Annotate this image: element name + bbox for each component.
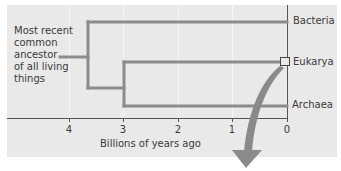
root-label-line: things [14, 73, 74, 85]
root-label-line: common [14, 37, 74, 49]
phylogenetic-tree-figure: Most recent common ancestor of all livin… [0, 0, 341, 171]
x-tick-label: 2 [171, 124, 185, 135]
taxon-label-archaea: Archaea [292, 99, 333, 111]
root-label-line: Most recent [14, 25, 74, 37]
x-tick-label: 0 [280, 124, 294, 135]
x-axis-title: Billions of years ago [100, 138, 201, 149]
root-label-line: ancestor [14, 49, 74, 61]
taxon-label-eukarya: Eukarya [293, 56, 334, 68]
arrow-head-icon [232, 150, 262, 168]
eukarya-highlight-box [281, 58, 290, 66]
taxon-label-bacteria: Bacteria [293, 15, 335, 27]
x-tick-label: 3 [116, 124, 130, 135]
root-label-line: of all living [14, 61, 74, 73]
x-tick-label: 1 [225, 124, 239, 135]
root-ancestor-label: Most recent common ancestor of all livin… [14, 25, 74, 85]
x-tick-label: 4 [62, 124, 76, 135]
